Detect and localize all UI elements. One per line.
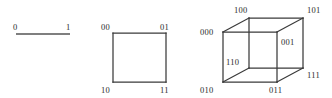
vertex-label-0: 0 <box>13 22 18 32</box>
vertex-label-101: 101 <box>307 5 321 15</box>
vertex-label-00: 00 <box>101 22 110 32</box>
edge-100-000 <box>223 18 249 32</box>
edge-group-2-cube <box>113 33 166 82</box>
diagram-3-cube: 100101000001110111010011 <box>200 5 321 95</box>
vertex-label-010: 010 <box>200 85 214 95</box>
vertex-label-11: 11 <box>160 85 169 95</box>
label-group-1-cube: 01 <box>13 22 71 32</box>
edge-111-011 <box>277 68 303 82</box>
edge-group-3-cube <box>223 18 303 82</box>
edge-110-010 <box>223 68 249 82</box>
vertex-label-111: 111 <box>307 70 320 80</box>
hypercube-diagram-figure: 01 00011011 100101000001110111010011 <box>0 0 332 98</box>
hypercube-diagram-canvas: 01 00011011 100101000001110111010011 <box>0 0 332 98</box>
vertex-label-011: 011 <box>269 85 282 95</box>
vertex-label-000: 000 <box>200 27 214 37</box>
vertex-label-100: 100 <box>234 5 248 15</box>
vertex-label-10: 10 <box>101 85 110 95</box>
vertex-label-1: 1 <box>66 22 71 32</box>
diagram-2-cube: 00011011 <box>101 22 169 95</box>
diagram-1-cube: 01 <box>13 22 71 34</box>
vertex-label-110: 110 <box>226 57 239 67</box>
vertex-label-001: 001 <box>281 37 295 47</box>
vertex-label-01: 01 <box>160 22 169 32</box>
edge-101-001 <box>277 18 303 32</box>
